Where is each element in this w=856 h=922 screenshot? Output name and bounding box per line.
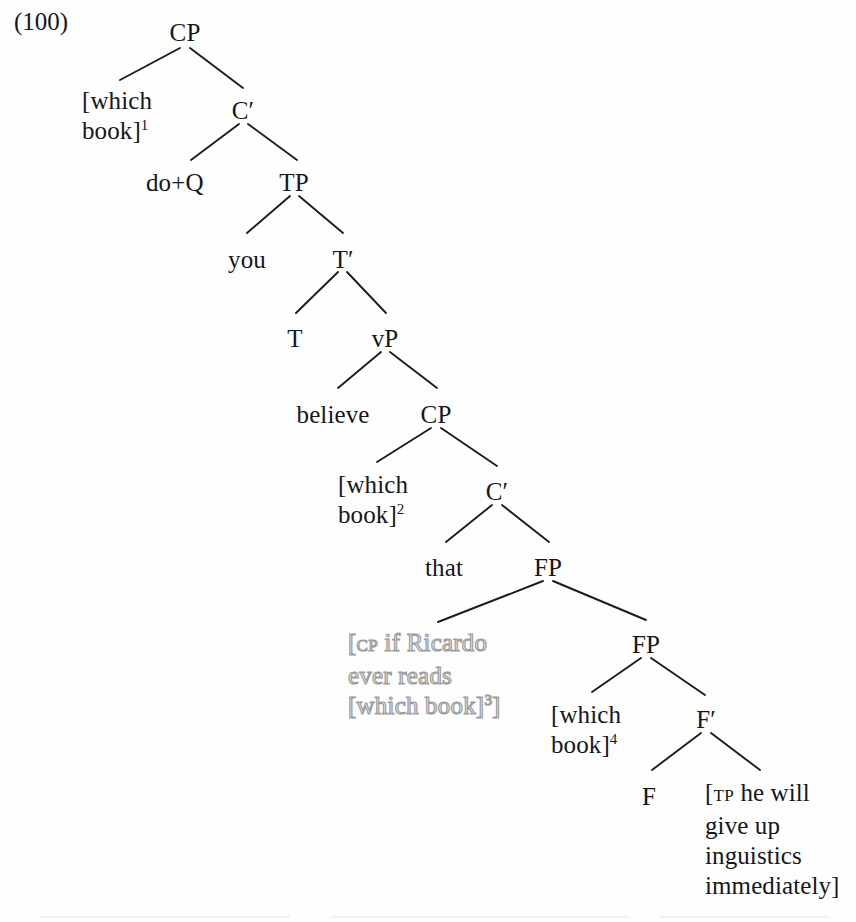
node-cp-embedded: CP bbox=[421, 400, 452, 430]
node-tp-bracketed-block: [TP he willgive upinguisticsimmediately] bbox=[705, 778, 840, 901]
ghost-line3-post: ] bbox=[492, 692, 501, 719]
node-f-bar: F′ bbox=[696, 705, 716, 735]
scan-artifact-mid bbox=[330, 916, 630, 918]
branch-cbar1-to-tp bbox=[248, 124, 297, 160]
branch-cbar1-to-doq bbox=[191, 124, 239, 160]
branch-vp-to-believe bbox=[338, 352, 381, 388]
node-you: you bbox=[228, 245, 266, 275]
scan-artifact-left bbox=[40, 916, 290, 918]
branch-cbar2-to-that bbox=[446, 505, 492, 542]
ghost-line2: ever reads bbox=[348, 662, 452, 689]
node-f: F bbox=[642, 782, 656, 812]
node-vp: vP bbox=[372, 324, 399, 354]
node-c-bar-embedded: C′ bbox=[486, 477, 508, 507]
node-which-book-2: [which book]2 bbox=[338, 470, 408, 530]
node-fp-lower: FP bbox=[632, 630, 660, 660]
node-believe: believe bbox=[297, 400, 370, 430]
node-fp-upper: FP bbox=[534, 553, 562, 583]
branch-cbar2-to-fp1 bbox=[502, 505, 549, 542]
branch-fp2-to-whichbook4 bbox=[592, 658, 641, 692]
node-c-bar-matrix: C′ bbox=[232, 96, 254, 126]
syntax-tree-page: (100) CP [which book]1 C′ do+Q TP you T′… bbox=[0, 0, 856, 922]
branch-cp1-to-whichbook1 bbox=[120, 48, 180, 80]
ghost-line3-superscript: 3 bbox=[484, 692, 492, 708]
scan-artifact-right bbox=[660, 916, 830, 918]
branch-tp-to-tbar bbox=[299, 196, 343, 233]
branch-fbar-to-f bbox=[652, 733, 701, 770]
branch-tbar-to-vp bbox=[347, 272, 386, 313]
branch-cp2-to-cbar2 bbox=[441, 428, 497, 466]
node-cp-matrix: CP bbox=[170, 18, 201, 48]
node-that: that bbox=[425, 553, 463, 583]
branch-cp2-to-whichbook2 bbox=[377, 428, 431, 462]
node-tp: TP bbox=[279, 168, 308, 198]
branch-fp1-to-fp2 bbox=[553, 581, 646, 620]
node-do-q: do+Q bbox=[146, 168, 204, 198]
branch-tbar-to-t bbox=[296, 272, 338, 313]
tp-subscript: TP bbox=[713, 786, 734, 805]
node-ghost-cp-constituent: [CP if Ricardo ever reads [which book]3] bbox=[348, 628, 501, 721]
branch-cp1-to-cbar1 bbox=[190, 48, 243, 88]
branch-fp2-to-fbar bbox=[651, 658, 705, 695]
branch-fbar-to-tpblock bbox=[711, 733, 760, 770]
node-which-book-1: [which book]1 bbox=[82, 86, 152, 146]
ghost-subscript-cp: CP bbox=[357, 636, 379, 655]
tp-line2: give up bbox=[705, 812, 780, 839]
branch-tp-to-you bbox=[247, 196, 290, 233]
node-which-book-4: [which book]4 bbox=[551, 700, 621, 760]
branch-fp1-to-ghostcp bbox=[438, 581, 543, 622]
ghost-line3-pre: [which book] bbox=[348, 692, 484, 719]
node-t: T bbox=[287, 324, 302, 354]
ghost-bracket-open: [ bbox=[348, 629, 357, 656]
node-t-bar: T′ bbox=[333, 245, 354, 275]
tp-line4: immediately] bbox=[705, 872, 840, 899]
ghost-line1: if Ricardo bbox=[378, 629, 487, 656]
example-number: (100) bbox=[14, 8, 68, 36]
tp-line3: inguistics bbox=[705, 842, 802, 869]
branch-vp-to-cp2 bbox=[390, 352, 437, 388]
tp-line1: he will bbox=[734, 779, 810, 806]
